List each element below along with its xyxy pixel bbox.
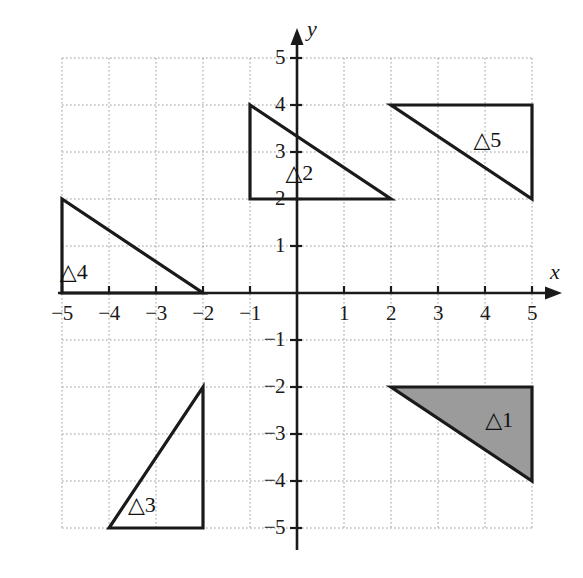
y-tick-label: 4 [275, 94, 285, 115]
triangle-5-label: △5 [473, 129, 501, 151]
x-tick-label: −4 [98, 303, 119, 324]
x-tick-label: −5 [51, 303, 72, 324]
x-tick-label: 3 [433, 303, 443, 324]
y-tick-label: −5 [264, 517, 285, 538]
y-tick-label: −4 [264, 470, 285, 491]
x-axis-arrowhead [545, 287, 562, 300]
y-tick-label: 1 [275, 235, 285, 256]
plot-canvas [0, 0, 583, 578]
coordinate-plane-figure: −5−4−3−2−112345 54321−1−2−3−4−5 △1△2△3△4… [0, 0, 583, 578]
x-tick-label: 4 [480, 303, 490, 324]
triangle-2-label: △2 [285, 162, 313, 184]
triangle-1-label: △1 [485, 409, 513, 431]
x-tick-label: −2 [192, 303, 213, 324]
y-axis-arrowhead [291, 28, 304, 45]
x-tick-label: 2 [386, 303, 396, 324]
x-tick-label: 5 [527, 303, 537, 324]
y-tick-label: −1 [264, 329, 285, 350]
x-tick-label: −3 [145, 303, 166, 324]
y-tick-label: −2 [264, 376, 285, 397]
y-tick-label: 3 [275, 141, 285, 162]
x-axis-label: x [550, 261, 560, 283]
triangle-3-label: △3 [128, 494, 156, 516]
triangle-1 [391, 387, 532, 481]
y-tick-label: 2 [275, 188, 285, 209]
triangle-4-label: △4 [60, 261, 88, 283]
y-tick-label: 5 [275, 47, 285, 68]
y-tick-label: −3 [264, 423, 285, 444]
x-tick-label: 1 [339, 303, 349, 324]
y-axis-label: y [307, 18, 317, 40]
x-tick-label: −1 [239, 303, 260, 324]
